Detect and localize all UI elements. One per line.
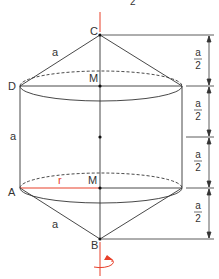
label-C: C <box>90 25 98 37</box>
edge-label-top-slant: a <box>52 46 59 58</box>
edge-label-cylinder: a <box>10 130 17 142</box>
dimension-fraction-3: a 2 <box>194 149 202 173</box>
svg-text:2: 2 <box>195 111 201 122</box>
edge-label-radius: r <box>58 174 62 186</box>
cylinder <box>20 86 182 239</box>
dimension-fraction-1: a 2 <box>194 47 202 71</box>
svg-text:a: a <box>195 98 201 109</box>
svg-text:a: a <box>195 149 201 160</box>
dimension-fraction-4: a 2 <box>194 200 202 224</box>
label-M-bottom: M <box>88 174 97 186</box>
top-cone <box>20 35 182 86</box>
edge-label-bottom-slant: a <box>52 218 59 230</box>
label-A: A <box>8 186 16 198</box>
svg-text:a: a <box>195 47 201 58</box>
svg-text:2: 2 <box>195 162 201 173</box>
label-B: B <box>91 239 98 251</box>
svg-text:2: 2 <box>195 213 201 224</box>
dimension-fraction-2: a 2 <box>194 98 202 122</box>
double-cone-cylinder-diagram: 2 <box>0 0 219 279</box>
svg-text:2: 2 <box>195 60 201 71</box>
label-M-top: M <box>89 72 98 84</box>
label-D: D <box>8 80 16 92</box>
header-partial-text: 2 <box>130 0 136 7</box>
svg-text:a: a <box>195 200 201 211</box>
bottom-cone <box>20 188 182 239</box>
